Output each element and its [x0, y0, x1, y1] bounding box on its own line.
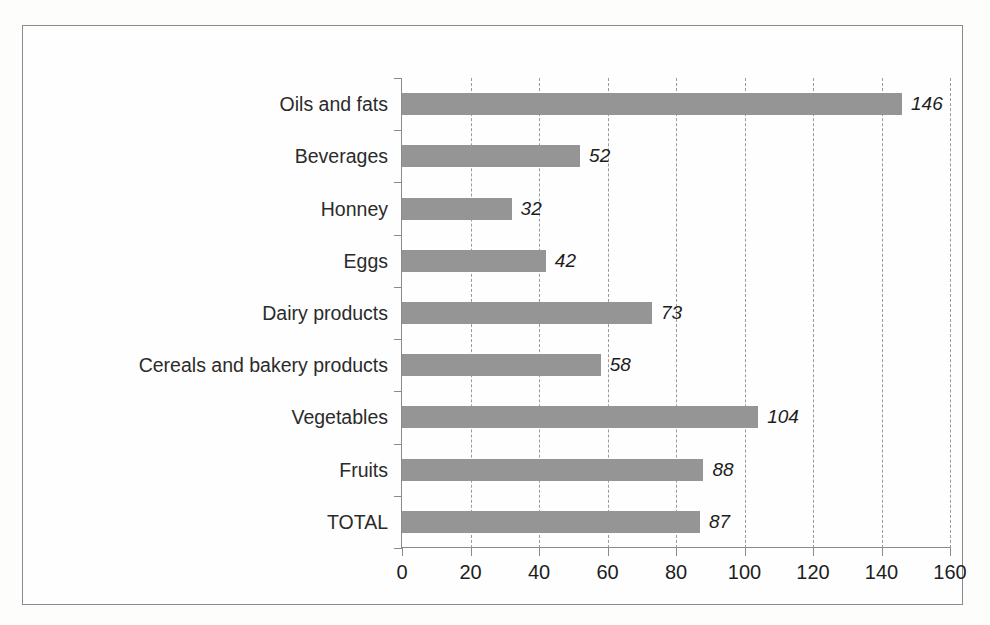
value-tick-0 [402, 548, 403, 556]
bar-value-label: 73 [661, 302, 682, 324]
bar[interactable] [402, 250, 546, 272]
bar[interactable] [402, 511, 700, 533]
gridline-140 [882, 78, 883, 548]
value-tick-160 [950, 548, 951, 556]
value-tick-40 [539, 548, 540, 556]
category-tick [394, 235, 402, 236]
value-tick-label: 40 [528, 561, 550, 584]
value-tick-label: 60 [596, 561, 618, 584]
bar-value-label: 32 [521, 198, 542, 220]
value-tick-label: 0 [396, 561, 407, 584]
category-axis-labels: Oils and fatsBeveragesHonneyEggsDairy pr… [63, 78, 388, 548]
value-tick-label: 80 [665, 561, 687, 584]
bar-value-label: 104 [767, 406, 799, 428]
bar[interactable] [402, 145, 580, 167]
category-label: TOTAL [327, 511, 388, 533]
category-label: Oils and fats [280, 93, 388, 115]
gridline-160 [950, 78, 951, 548]
value-tick-140 [882, 548, 883, 556]
value-tick-label: 20 [459, 561, 481, 584]
gridline-120 [813, 78, 814, 548]
category-tick [394, 548, 402, 549]
category-label: Cereals and bakery products [139, 354, 388, 376]
bar[interactable] [402, 302, 652, 324]
category-tick [394, 287, 402, 288]
value-tick-100 [745, 548, 746, 556]
bar[interactable] [402, 198, 512, 220]
category-tick [394, 182, 402, 183]
chart-frame: Oils and fatsBeveragesHonneyEggsDairy pr… [22, 25, 963, 605]
value-tick-60 [608, 548, 609, 556]
bar-value-label: 58 [610, 354, 631, 376]
bar[interactable] [402, 354, 601, 376]
category-tick [394, 78, 402, 79]
bar-value-label: 146 [911, 93, 943, 115]
value-tick-label: 100 [728, 561, 761, 584]
category-label: Honney [321, 198, 388, 220]
category-tick [394, 444, 402, 445]
bar[interactable] [402, 459, 703, 481]
chart-page: Oils and fatsBeveragesHonneyEggsDairy pr… [0, 0, 990, 625]
plot-area: 14652324273581048887 [402, 78, 950, 548]
category-label: Dairy products [262, 302, 388, 324]
category-tick [394, 391, 402, 392]
category-tick [394, 130, 402, 131]
bar-value-label: 42 [555, 250, 576, 272]
value-axis: 020406080100120140160 [402, 548, 950, 608]
category-label: Vegetables [291, 406, 388, 428]
bar-value-label: 87 [709, 511, 730, 533]
bar[interactable] [402, 406, 758, 428]
value-tick-80 [676, 548, 677, 556]
value-tick-120 [813, 548, 814, 556]
gridline-100 [745, 78, 746, 548]
bar[interactable] [402, 93, 902, 115]
category-label: Beverages [295, 145, 388, 167]
category-label: Eggs [344, 250, 388, 272]
bar-value-label: 88 [712, 459, 733, 481]
value-tick-label: 140 [865, 561, 898, 584]
value-tick-20 [471, 548, 472, 556]
category-label: Fruits [339, 459, 388, 481]
bar-value-label: 52 [589, 145, 610, 167]
value-tick-label: 120 [796, 561, 829, 584]
value-tick-label: 160 [933, 561, 966, 584]
category-tick [394, 339, 402, 340]
category-tick [394, 496, 402, 497]
